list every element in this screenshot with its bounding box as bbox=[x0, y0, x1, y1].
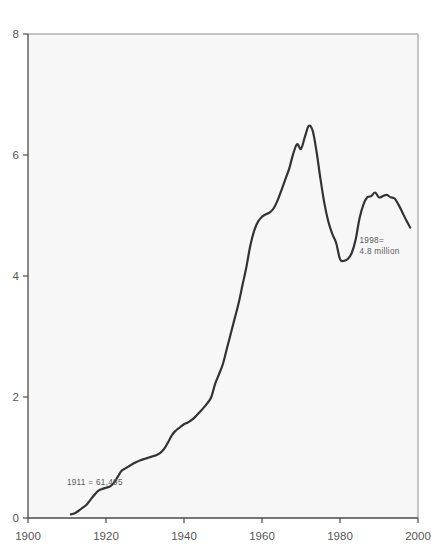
y-tick-label: 4 bbox=[13, 270, 20, 282]
chart-container: 02468 190019201940196019802000 1911 = 61… bbox=[0, 0, 436, 551]
y-tick-label: 0 bbox=[13, 512, 19, 524]
x-axis-ticks bbox=[28, 518, 418, 523]
x-tick-label: 1960 bbox=[249, 530, 275, 542]
y-tick-label: 2 bbox=[13, 391, 19, 403]
y-axis-tick-labels: 02468 bbox=[13, 28, 20, 524]
x-tick-label: 1940 bbox=[171, 530, 197, 542]
plot-background bbox=[28, 34, 418, 518]
end-annotation-label-line1: 1998= bbox=[360, 236, 385, 245]
x-tick-label: 2000 bbox=[405, 530, 431, 542]
x-tick-label: 1920 bbox=[93, 530, 119, 542]
y-axis-ticks bbox=[23, 34, 28, 518]
y-tick-label: 6 bbox=[13, 149, 19, 161]
start-annotation-label: 1911 = 61,495 bbox=[67, 478, 123, 487]
x-tick-label: 1980 bbox=[327, 530, 353, 542]
y-tick-label: 8 bbox=[13, 28, 19, 40]
end-annotation-label-line2: 4.8 million bbox=[360, 247, 400, 256]
x-tick-label: 1900 bbox=[15, 530, 41, 542]
line-chart: 02468 190019201940196019802000 1911 = 61… bbox=[0, 0, 436, 551]
x-axis-tick-labels: 190019201940196019802000 bbox=[15, 530, 431, 542]
